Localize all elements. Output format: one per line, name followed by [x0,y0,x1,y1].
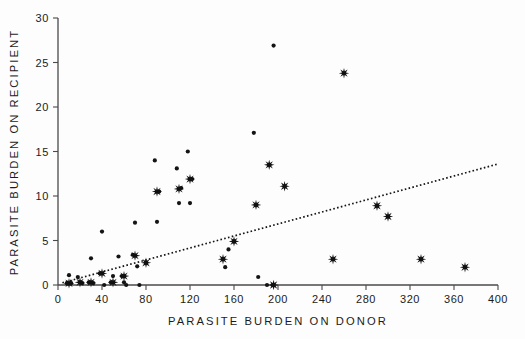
data-point-star [86,277,96,287]
data-point-small [188,201,192,205]
star-marker-series [64,68,470,290]
data-point-star [141,258,151,268]
data-point-small [223,265,227,269]
data-point-small [76,275,80,279]
x-tick-label: 320 [400,293,420,305]
data-point-star [130,250,140,260]
data-point-star [383,211,393,221]
regression-line [62,164,498,283]
data-point-small [175,166,179,170]
data-point-small [252,131,256,135]
x-axis-tick-labels: 04080120160200240280320360400 [55,293,508,305]
data-point-small [135,264,139,268]
data-point-star [268,280,278,290]
data-point-small [137,283,141,287]
data-point-small [100,230,104,234]
x-axis-ticks [58,285,498,290]
data-point-small [67,273,71,277]
x-tick-label: 280 [356,293,376,305]
x-tick-label: 240 [312,293,332,305]
x-tick-label: 120 [180,293,200,305]
data-point-star [97,268,107,278]
x-tick-label: 400 [488,293,508,305]
x-tick-label: 80 [139,293,152,305]
data-point-star [372,201,382,211]
chart-canvas: 051015202530 040801201602002402803203604… [0,0,525,339]
x-tick-label: 360 [444,293,464,305]
data-point-star [119,271,129,281]
scatter-plot-figure: 051015202530 040801201602002402803203604… [0,0,525,339]
data-point-small [155,220,159,224]
data-point-star [108,277,118,287]
data-point-star [218,254,228,264]
data-point-small [256,275,260,279]
data-point-small [133,221,137,225]
data-point-small [153,158,157,162]
y-axis-tick-labels: 051015202530 [36,12,49,291]
data-point-star [152,186,162,196]
y-tick-label: 0 [42,279,49,291]
small-dot-series [65,43,276,287]
x-tick-label: 160 [224,293,244,305]
data-point-small [272,43,276,47]
data-point-small [177,201,181,205]
data-point-small [116,254,120,258]
data-point-small [124,283,128,287]
y-tick-label: 25 [36,57,49,69]
data-point-star [75,277,85,287]
data-point-small [89,256,93,260]
data-point-star [229,236,239,246]
data-point-small [102,283,106,287]
x-tick-label: 0 [55,293,62,305]
data-point-star [279,181,289,191]
y-tick-label: 5 [42,235,49,247]
y-tick-label: 20 [36,101,49,113]
data-point-small [226,247,230,251]
data-point-small [186,149,190,153]
data-point-star [339,68,349,78]
data-point-star [174,184,184,194]
y-tick-label: 30 [36,12,49,24]
data-point-star [460,262,470,272]
data-point-star [251,200,261,210]
data-point-star [264,160,274,170]
x-tick-label: 40 [95,293,108,305]
y-axis-title: PARASITE BURDEN ON RECIPIENT [8,29,20,275]
y-tick-label: 15 [36,146,49,158]
data-point-star [64,278,74,288]
y-tick-label: 10 [36,190,49,202]
data-point-star [185,174,195,184]
x-tick-label: 200 [268,293,288,305]
data-point-star [416,254,426,264]
data-point-star [328,254,338,264]
x-axis-title: PARASITE BURDEN ON DONOR [168,315,388,327]
y-axis-ticks [53,18,58,285]
